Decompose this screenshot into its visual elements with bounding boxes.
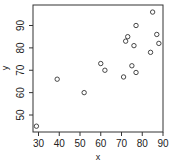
y-axis-label: y (0, 65, 10, 70)
data-point (148, 50, 152, 54)
data-point (130, 64, 134, 68)
data-point (134, 70, 138, 74)
data-point (99, 61, 103, 65)
y-tick-label: 90 (15, 20, 26, 32)
data-point (121, 75, 125, 79)
x-axis-label: x (96, 152, 101, 162)
data-point (157, 41, 161, 45)
data-point (134, 23, 138, 27)
data-point (132, 43, 136, 47)
data-point (123, 39, 127, 43)
data-point (150, 10, 154, 14)
data-point (103, 68, 107, 72)
data-point (55, 77, 59, 81)
x-tick-label: 70 (116, 138, 128, 149)
x-tick-label: 50 (74, 138, 86, 149)
data-points (34, 10, 161, 129)
x-tick-label: 80 (137, 138, 149, 149)
data-point (82, 90, 86, 94)
y-axis: 5060708090 (15, 20, 33, 121)
plot-box (33, 5, 163, 132)
x-tick-label: 40 (54, 138, 66, 149)
y-tick-label: 80 (15, 42, 26, 54)
x-axis: 30405060708090 (33, 132, 169, 149)
x-tick-label: 30 (33, 138, 45, 149)
data-point (34, 124, 38, 128)
y-tick-label: 50 (15, 109, 26, 121)
scatter-chart: 30405060708090 5060708090 x y (0, 0, 169, 164)
x-tick-label: 90 (157, 138, 169, 149)
x-tick-label: 60 (95, 138, 107, 149)
y-tick-label: 70 (15, 64, 26, 76)
data-point (126, 34, 130, 38)
data-point (155, 32, 159, 36)
y-tick-label: 60 (15, 87, 26, 99)
